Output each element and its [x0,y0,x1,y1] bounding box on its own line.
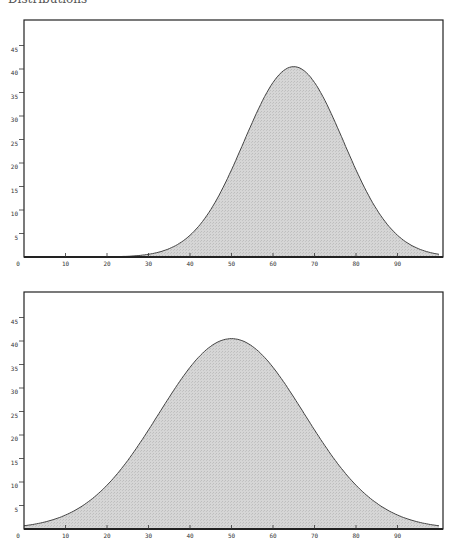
x-tick-label: 40 [186,260,194,267]
x-tick-label: 60 [269,532,277,539]
x-tick-label: 20 [103,532,111,539]
x-tick-label: 60 [269,260,277,267]
distribution-area [24,339,439,529]
y-tick-label: 15 [11,187,19,194]
y-tick-label: 25 [11,412,19,419]
x-tick-label: 0 [16,532,20,539]
y-tick-label: 5 [14,234,18,241]
x-tick-label: 80 [352,260,360,267]
y-tick-label: 20 [11,163,19,170]
y-tick-label: 10 [11,482,19,489]
x-tick-label: 90 [394,532,402,539]
x-tick-label: 40 [186,532,194,539]
x-tick-label: 0 [16,260,20,267]
x-tick-label: 50 [228,260,236,267]
distribution-area [24,67,439,257]
x-tick-label: 90 [394,260,402,267]
bottom-distribution-chart: 010203040506070809051015202530354045 [11,292,443,539]
y-tick-label: 35 [11,365,19,372]
x-tick-label: 10 [62,260,70,267]
x-tick-label: 50 [228,532,236,539]
y-tick-label: 40 [11,341,19,348]
x-tick-label: 10 [62,532,70,539]
y-tick-label: 45 [11,46,19,53]
chart-canvas: 010203040506070809051015202530354045 010… [0,0,458,552]
y-tick-label: 45 [11,318,19,325]
x-tick-label: 70 [311,532,319,539]
y-tick-label: 20 [11,435,19,442]
x-tick-label: 30 [145,260,153,267]
top-distribution-chart: 010203040506070809051015202530354045 [11,20,443,267]
y-tick-label: 35 [11,93,19,100]
y-tick-label: 15 [11,459,19,466]
x-tick-label: 80 [352,532,360,539]
y-tick-label: 30 [11,116,19,123]
y-tick-label: 10 [11,210,19,217]
y-tick-label: 40 [11,69,19,76]
y-tick-label: 25 [11,140,19,147]
y-tick-label: 30 [11,388,19,395]
x-tick-label: 30 [145,532,153,539]
x-tick-label: 70 [311,260,319,267]
x-tick-label: 20 [103,260,111,267]
y-tick-label: 5 [14,506,18,513]
